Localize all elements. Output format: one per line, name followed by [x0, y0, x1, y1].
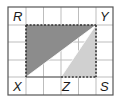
label-Y: Y: [100, 9, 110, 24]
label-Z: Z: [61, 79, 71, 94]
geometry-diagram: R Y X Z S: [0, 0, 118, 101]
label-X: X: [12, 79, 23, 94]
label-R: R: [13, 9, 22, 24]
label-S: S: [100, 79, 109, 94]
